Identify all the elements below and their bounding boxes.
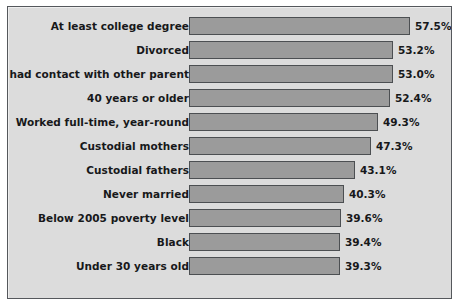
- bar: [189, 17, 410, 35]
- bar: [189, 137, 371, 155]
- bar: [189, 233, 340, 251]
- bar: [189, 113, 378, 131]
- bar-row: Below 2005 poverty level39.6%: [8, 206, 452, 230]
- bar-chart-figure: At least college degree57.5%Divorced53.2…: [0, 0, 459, 305]
- bar: [189, 209, 341, 227]
- bar-rows-container: At least college degree57.5%Divorced53.2…: [8, 7, 452, 299]
- category-label: Divorced: [136, 38, 189, 62]
- bar-row: Child had contact with other parent53.0%: [8, 62, 452, 86]
- category-label: Black: [157, 230, 189, 254]
- bar-value-label: 39.3%: [340, 257, 381, 275]
- bar: [189, 65, 393, 83]
- bar-row: Custodial mothers47.3%: [8, 134, 452, 158]
- bar-value-label: 39.6%: [341, 209, 382, 227]
- bar-value-label: 47.3%: [371, 137, 412, 155]
- bar-track: 47.3%: [189, 137, 410, 155]
- bar-track: 43.1%: [189, 161, 410, 179]
- bar: [189, 89, 390, 107]
- bar-track: 57.5%: [189, 17, 410, 35]
- bar-value-label: 53.0%: [393, 65, 434, 83]
- bar-row: Custodial fathers43.1%: [8, 158, 452, 182]
- category-label: Custodial mothers: [80, 134, 189, 158]
- plot-area: At least college degree57.5%Divorced53.2…: [7, 6, 452, 299]
- category-label: Custodial fathers: [86, 158, 189, 182]
- bar-track: 39.4%: [189, 233, 410, 251]
- bar-row: Divorced53.2%: [8, 38, 452, 62]
- bar-value-label: 43.1%: [355, 161, 396, 179]
- bar: [189, 41, 393, 59]
- category-label: At least college degree: [51, 14, 189, 38]
- bar-row: At least college degree57.5%: [8, 14, 452, 38]
- bar-track: 52.4%: [189, 89, 410, 107]
- bar-track: 39.3%: [189, 257, 410, 275]
- bar-value-label: 39.4%: [340, 233, 381, 251]
- bar-value-label: 52.4%: [390, 89, 431, 107]
- bar-track: 53.0%: [189, 65, 410, 83]
- bar-track: 39.6%: [189, 209, 410, 227]
- bar-track: 53.2%: [189, 41, 410, 59]
- bar-row: Under 30 years old39.3%: [8, 254, 452, 278]
- bar-value-label: 57.5%: [410, 17, 451, 35]
- category-label: Never married: [103, 182, 189, 206]
- category-label: 40 years or older: [87, 86, 189, 110]
- bar-value-label: 53.2%: [393, 41, 434, 59]
- bar-value-label: 40.3%: [344, 185, 385, 203]
- bar-row: Black39.4%: [8, 230, 452, 254]
- bar: [189, 185, 344, 203]
- bar-value-label: 49.3%: [378, 113, 419, 131]
- bar: [189, 161, 355, 179]
- category-label: Below 2005 poverty level: [38, 206, 189, 230]
- bar: [189, 257, 340, 275]
- category-label: Child had contact with other parent: [7, 62, 189, 86]
- bar-row: Worked full-time, year-round49.3%: [8, 110, 452, 134]
- bar-track: 49.3%: [189, 113, 410, 131]
- bar-row: Never married40.3%: [8, 182, 452, 206]
- bar-row: 40 years or older52.4%: [8, 86, 452, 110]
- category-label: Worked full-time, year-round: [16, 110, 189, 134]
- bar-track: 40.3%: [189, 185, 410, 203]
- category-label: Under 30 years old: [76, 254, 189, 278]
